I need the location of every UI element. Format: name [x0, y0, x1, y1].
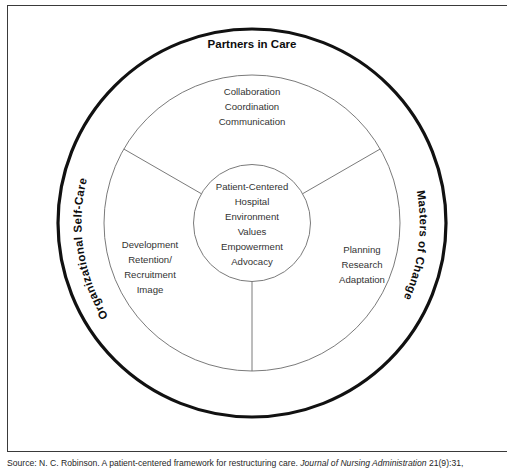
core-line-0: Patient-Centered: [216, 181, 289, 192]
core-text-group: Patient-Centered Hospital Environment Va…: [216, 181, 289, 267]
middle-segment-left-line-0: Development: [122, 239, 179, 250]
core-line-2: Environment: [225, 211, 279, 222]
outer-ring-label-top: Partners in Care: [208, 38, 297, 50]
middle-segment-right: Planning Research Adaptation: [339, 244, 385, 285]
source-journal: Journal of Nursing Administration: [300, 458, 426, 468]
middle-segment-top-line-2: Communication: [219, 116, 286, 127]
source-volume: 21(9):31,: [429, 458, 463, 468]
middle-segment-left-line-3: Image: [137, 284, 164, 295]
source-citation: Source: N. C. Robinson. A patient-center…: [7, 458, 499, 469]
concentric-diagram: Partners in Care Organizational Self-Car…: [0, 0, 500, 452]
core-line-4: Empowerment: [221, 241, 283, 252]
outer-ring-label-right: Masters of Change: [402, 189, 430, 302]
core-line-1: Hospital: [235, 196, 270, 207]
core-line-5: Advocacy: [231, 256, 273, 267]
middle-segment-top-line-0: Collaboration: [224, 86, 281, 97]
middle-segment-right-line-0: Planning: [343, 244, 380, 255]
middle-segment-right-line-2: Adaptation: [339, 274, 385, 285]
middle-segment-right-line-1: Research: [341, 259, 382, 270]
middle-segment-top: Collaboration Coordination Communication: [219, 86, 286, 127]
spoke-upper-right: [303, 149, 381, 194]
middle-segment-top-line-1: Coordination: [225, 101, 279, 112]
core-line-3: Values: [238, 226, 267, 237]
source-prefix: Source: N. C. Robinson. A patient-center…: [7, 458, 298, 468]
middle-segment-left: Development Retention/ Recruitment Image: [122, 239, 179, 295]
middle-segment-left-line-1: Retention/: [128, 254, 172, 265]
spoke-upper-left: [124, 149, 202, 194]
outer-ring-label-left: Organizational Self-Care: [71, 176, 110, 321]
middle-segment-left-line-2: Recruitment: [124, 269, 176, 280]
